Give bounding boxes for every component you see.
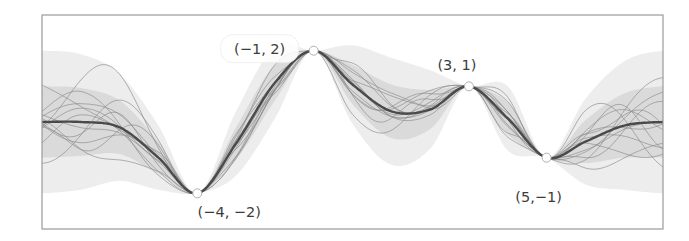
observation-marker bbox=[193, 189, 202, 198]
observation-marker bbox=[309, 46, 318, 55]
point-label: (5,−1) bbox=[515, 189, 562, 205]
observation-marker bbox=[464, 82, 473, 91]
point-label: (−4, −2) bbox=[198, 204, 261, 220]
uncertainty-band bbox=[42, 43, 663, 194]
observation-marker bbox=[542, 153, 551, 162]
point-label: (3, 1) bbox=[437, 57, 476, 73]
observation-point: (−4, −2) bbox=[193, 189, 261, 221]
gp-regression-chart: (−4, −2)(−1, 2)(3, 1)(5,−1) bbox=[0, 0, 689, 241]
point-label: (−1, 2) bbox=[234, 41, 285, 57]
